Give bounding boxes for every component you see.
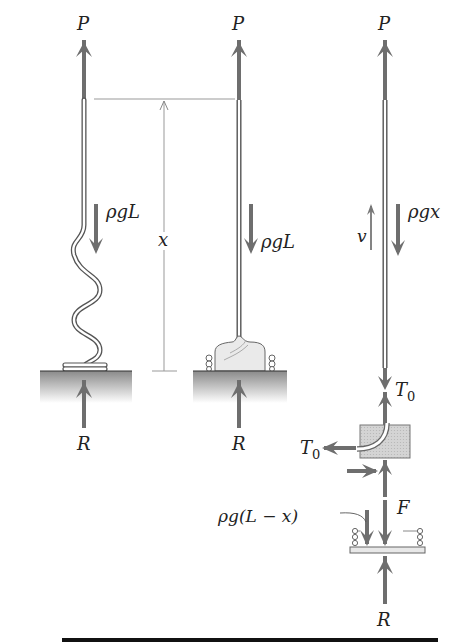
label-weight: ρgL — [260, 231, 295, 252]
panel-free-body: P v ρgx T0 — [217, 13, 440, 630]
velocity-arrow — [367, 204, 375, 250]
dimension-x: x — [94, 99, 235, 371]
label-pile-weight: ρg(L − x) — [217, 506, 298, 526]
force-arrow-weight — [391, 204, 405, 256]
force-arrow-p — [231, 40, 247, 100]
tension-arrow-left — [322, 441, 356, 455]
tension-arrow-up — [378, 392, 392, 425]
label-r: R — [231, 433, 246, 454]
bottom-rule — [62, 638, 438, 642]
label-p: P — [76, 13, 90, 34]
label-t0-left: T0 — [300, 437, 320, 462]
force-arrow-f-down — [378, 500, 392, 546]
chain-diagram: P ρgL R x — [0, 0, 461, 643]
label-t0: T0 — [395, 379, 415, 404]
panel-piled-chain: P ρgL R — [193, 13, 295, 454]
label-x: x — [158, 229, 168, 250]
label-p: P — [231, 13, 245, 34]
label-r: R — [76, 433, 91, 454]
force-arrow-weight — [89, 204, 103, 254]
force-arrow-p — [76, 40, 92, 100]
horizontal-arrow-right — [347, 464, 378, 478]
label-weight: ρgL — [105, 201, 140, 222]
panel-coiled-chain: P ρgL R — [40, 13, 140, 454]
force-arrow-pile-weight — [340, 510, 374, 546]
force-arrow-f-up — [378, 460, 392, 497]
label-r: R — [376, 609, 391, 630]
force-arrow-weight — [244, 204, 258, 254]
chain-pile — [206, 336, 275, 372]
label-f: F — [396, 497, 411, 518]
tension-arrow-down — [378, 368, 392, 390]
force-arrow-r — [377, 556, 393, 604]
label-v: v — [357, 226, 367, 246]
turning-element-block — [357, 423, 410, 458]
label-p: P — [377, 13, 391, 34]
force-arrow-p — [377, 40, 393, 100]
chain — [63, 100, 107, 371]
label-weight: ρgx — [407, 201, 440, 222]
